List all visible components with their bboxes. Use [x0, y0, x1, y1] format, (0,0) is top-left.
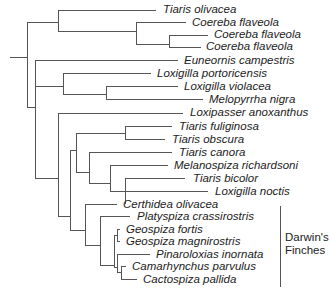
taxon-label: Tiaris bicolor [193, 172, 258, 184]
taxon-label: Loxigilla violacea [184, 80, 271, 92]
root-branch [10, 22, 27, 107]
branch-coereba-clade [58, 22, 136, 44]
taxon-label: Loxipasser anoxanthus [190, 106, 308, 118]
branch-canora-clade [76, 152, 89, 183]
taxon-label: Camarhynchus parvulus [132, 260, 256, 272]
branch-tiaris-clade [70, 133, 76, 172]
branch-coereba-pair [136, 35, 169, 47]
taxon-label: Coereba flaveola [214, 28, 301, 40]
taxon-label: Certhidea olivacea [123, 198, 218, 210]
taxon-label: Tiaris fuliginosa [179, 120, 259, 132]
branch-camarhynchus-cactospiza [117, 266, 121, 279]
branch-geospiza-clade [100, 235, 114, 267]
taxon-label: Tiaris obscura [172, 133, 244, 145]
branch-melanospiza-clade [89, 165, 110, 191]
branch-darwins-finches [70, 204, 85, 245]
taxon-label: Melanospiza richardsoni [174, 159, 298, 171]
taxon-label: Geospiza magnirostris [126, 235, 240, 247]
taxon-label: Euneornis campestris [184, 54, 295, 66]
taxon-label: Tiaris olivacea [163, 3, 236, 15]
group-label-line2: Finches [285, 244, 329, 257]
taxon-label: Coereba flaveola [206, 40, 293, 52]
group-label-line1: Darwin's [285, 231, 329, 244]
branch-violacea-nigra [63, 86, 106, 99]
taxon-label: Melopyrrha nigra [209, 93, 295, 105]
branch-clade-a [27, 10, 58, 31]
branch-clade-c [35, 113, 58, 216]
branch-ground-tree-clade [85, 216, 100, 265]
taxon-label: Platyspiza crassirostris [137, 210, 254, 222]
taxon-label: Loxigilla portoricensis [157, 67, 267, 79]
taxon-label: Coereba flaveola [192, 16, 279, 28]
taxon-label: Cactospiza pallida [143, 273, 236, 285]
taxon-label: Loxigilla noctis [215, 185, 290, 197]
branch-fuliginosa-obscura [76, 126, 125, 139]
branch-clade-d [58, 150, 70, 230]
taxon-label: Geospiza fortis [126, 223, 203, 235]
branch-loxigilla-clade [35, 73, 63, 94]
darwins-finches-label: Darwin's Finches [285, 231, 329, 257]
branch-clade-b [27, 60, 35, 178]
taxon-label: Pinaroloxias inornata [156, 248, 263, 260]
taxon-label: Tiaris canora [179, 146, 245, 158]
